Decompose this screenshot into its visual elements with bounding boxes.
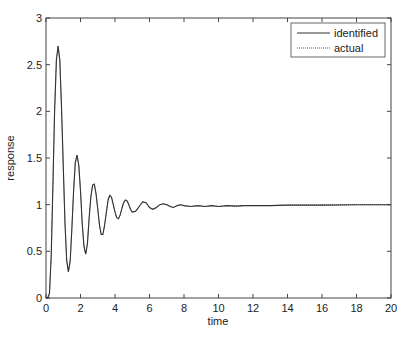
plot-area: [46, 18, 391, 298]
y-tick-label: 2.5: [27, 59, 42, 71]
line-chart: 02468101214161820 00.511.522.53 time res…: [0, 0, 409, 337]
x-tick-label: 14: [281, 302, 293, 314]
y-axis-label: response: [4, 135, 16, 180]
x-tick-label: 20: [385, 302, 397, 314]
x-tick-label: 2: [77, 302, 83, 314]
x-tick-label: 18: [350, 302, 362, 314]
y-tick-label: 1: [36, 199, 42, 211]
legend-identified-label: identified: [334, 27, 378, 39]
legend: identified actual: [291, 23, 385, 57]
y-tick-label: 2: [36, 105, 42, 117]
y-tick-label: 0.5: [27, 245, 42, 257]
legend-actual-label: actual: [334, 42, 363, 54]
x-tick-label: 0: [43, 302, 49, 314]
y-tick-label: 3: [36, 12, 42, 24]
x-tick-label: 8: [181, 302, 187, 314]
x-axis-label: time: [208, 315, 229, 327]
x-tick-label: 6: [146, 302, 152, 314]
x-tick-label: 10: [212, 302, 224, 314]
y-tick-label: 1.5: [27, 152, 42, 164]
x-tick-label: 16: [316, 302, 328, 314]
y-tick-label: 0: [36, 292, 42, 304]
x-tick-label: 12: [247, 302, 259, 314]
x-tick-label: 4: [112, 302, 118, 314]
